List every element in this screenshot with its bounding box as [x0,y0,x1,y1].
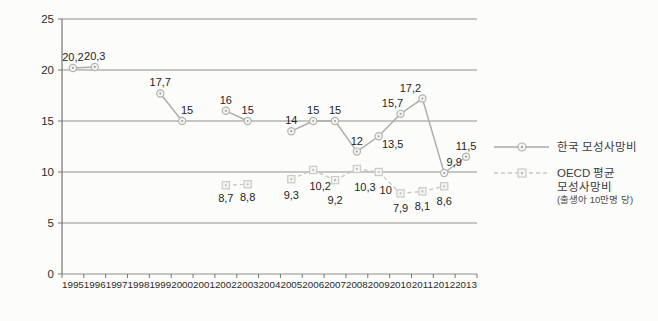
x-tick-label: 2001 [193,279,215,290]
x-tick-label: 2008 [346,279,368,290]
x-tick-label: 2009 [368,279,390,290]
data-point-marker-dot [225,110,227,112]
x-tick-label: 1997 [106,279,128,290]
data-point-label: 17,2 [400,82,421,94]
legend-label-oecd-line1: OECD 평균 [557,166,633,180]
data-point-marker-dot [356,151,358,153]
data-point-marker-dot [72,67,74,69]
legend-label-oecd: OECD 평균 모성사망비 (출생아 10만명 당) [557,166,633,206]
data-point-label: 8,6 [437,195,452,207]
data-point-label: 13,5 [382,138,403,150]
data-point-label: 15 [242,104,254,116]
data-point-marker-dot [312,120,314,122]
data-point-label: 15 [181,104,193,116]
y-tick-label: 0 [48,268,54,280]
y-tick-label: 25 [41,13,54,25]
data-point-label: 15 [307,104,319,116]
data-point-label: 9,2 [327,194,342,206]
data-point-marker-dot [290,130,292,132]
data-point-label: 15,7 [382,97,403,109]
legend-label-oecd-line3: (출생아 10만명 당) [557,194,633,206]
data-point-label: 9,9 [447,156,462,168]
data-point-marker-dot [247,183,249,185]
legend-korea-circle-dot [521,146,523,148]
data-point-label: 9,3 [284,189,299,201]
x-tick-label: 2013 [455,279,477,290]
data-point-label: 8,7 [218,192,233,204]
data-point-marker-dot [399,113,401,115]
x-tick-label: 2012 [433,279,455,290]
series-line-segment [422,99,444,173]
x-tick-label: 2010 [390,279,412,290]
chart-figure: 0510152025199519961997199819992000200120… [0,0,658,321]
y-tick-label: 5 [48,217,54,229]
y-tick-label: 15 [41,115,54,127]
legend: 한국 모성사망비 OECD 평균 모성사망비 (출생아 10만명 당) [557,140,637,154]
legend-label-korea: 한국 모성사망비 [557,140,637,154]
data-point-marker-dot [181,120,183,122]
y-tick-label: 10 [41,166,54,178]
series-line-segment [379,114,401,136]
data-point-label: 20,3 [84,50,105,62]
data-point-marker-dot [225,184,227,186]
x-tick-label: 2007 [324,279,346,290]
data-point-label: 8,1 [415,200,430,212]
data-point-marker-dot [159,92,161,94]
data-point-marker-dot [378,171,380,173]
x-tick-label: 1996 [84,279,106,290]
maternal-mortality-line-chart: 0510152025199519961997199819992000200120… [0,0,658,321]
x-tick-label: 2011 [412,279,433,290]
data-point-marker-dot [334,120,336,122]
x-tick-label: 1998 [128,279,150,290]
data-point-marker-dot [421,190,423,192]
legend-label-oecd-line2: 모성사망비 [557,180,633,194]
data-point-label: 10,2 [309,180,330,192]
x-tick-label: 2002 [215,279,237,290]
data-point-marker-dot [399,192,401,194]
data-point-label: 10 [380,184,392,196]
data-point-label: 12 [351,135,363,147]
series-line-segment [160,93,182,121]
data-point-label: 17,7 [150,76,171,88]
data-point-marker-dot [334,179,336,181]
data-point-marker-dot [290,178,292,180]
data-point-marker-dot [465,156,467,158]
y-tick-label: 20 [41,64,54,76]
data-point-label: 20,2 [62,51,83,63]
data-point-label: 7,9 [393,202,408,214]
data-point-marker-dot [247,120,249,122]
x-tick-label: 1999 [149,279,171,290]
data-point-marker-dot [356,168,358,170]
x-tick-label: 2005 [280,279,302,290]
x-tick-label: 1995 [62,279,84,290]
data-point-marker-dot [378,135,380,137]
x-tick-label: 2000 [171,279,193,290]
data-point-marker-dot [443,185,445,187]
data-point-marker-dot [312,169,314,171]
data-point-marker-dot [94,66,96,68]
legend-oecd-square-dot [521,172,523,174]
x-tick-label: 2004 [259,279,281,290]
data-point-label: 16 [220,94,232,106]
data-point-marker-dot [443,172,445,174]
data-point-label: 8,8 [240,191,255,203]
data-point-label: 14 [285,114,297,126]
data-point-label: 11,5 [456,140,477,152]
x-tick-label: 2003 [237,279,259,290]
data-point-label: 15 [329,104,341,116]
data-point-marker-dot [421,97,423,99]
data-point-label: 10,3 [354,181,375,193]
x-tick-label: 2006 [302,279,324,290]
